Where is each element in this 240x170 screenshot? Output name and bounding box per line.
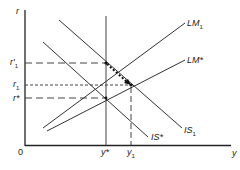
y-axis-label: y — [232, 149, 237, 158]
diagram-canvas — [0, 0, 240, 170]
r1-label: r1 — [13, 80, 19, 91]
point-initial-equilibrium — [104, 61, 107, 64]
r-star-label: r* — [13, 94, 20, 105]
is1-label: IS1 — [184, 126, 196, 137]
y1-label: y1 — [127, 148, 135, 159]
is-star-curve — [43, 42, 148, 137]
r-prime-1-label: r'1 — [10, 58, 18, 69]
origin-label: 0 — [18, 148, 23, 157]
y-star-label: y* — [101, 148, 109, 159]
adjustment-arrow — [107, 64, 127, 82]
is-star-label: IS* — [151, 133, 163, 142]
point-new-equilibrium — [129, 83, 132, 86]
islm-diagram: r y 0 r'1 r1 r* y* y1 LM1 LM* IS1 IS* — [0, 0, 240, 170]
r-axis-label: r — [16, 7, 19, 16]
point-star-equilibrium — [105, 97, 108, 100]
lm-star-label: LM* — [187, 56, 203, 65]
lm1-label: LM1 — [187, 19, 203, 30]
